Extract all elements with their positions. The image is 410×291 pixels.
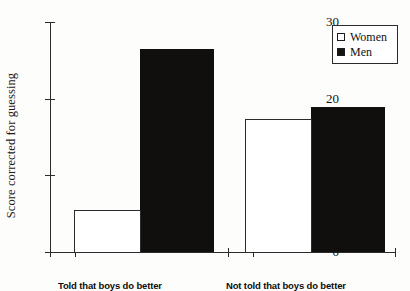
bar-men-group-1 bbox=[311, 107, 385, 252]
x-tick-2 bbox=[228, 248, 229, 257]
filled-square-icon bbox=[337, 48, 345, 56]
y-tick-label-20: 20 bbox=[309, 92, 339, 105]
y-tick-20 bbox=[45, 99, 55, 100]
y-axis-title: Score corrected for guessing bbox=[0, 0, 22, 291]
y-tick-10 bbox=[45, 175, 55, 176]
legend-item-men: Men bbox=[337, 44, 393, 59]
bar-chart-figure: Score corrected for guessing 0102030 Tol… bbox=[0, 0, 410, 291]
x-group-label-told: Told that boys do better bbox=[58, 280, 162, 291]
open-square-icon bbox=[337, 33, 345, 41]
x-axis-line bbox=[50, 252, 395, 253]
bar-women-group-1 bbox=[245, 119, 312, 252]
x-tick-4 bbox=[395, 248, 396, 257]
legend: Women Men bbox=[332, 25, 398, 64]
x-tick-0 bbox=[50, 248, 51, 257]
bar-men-group-0 bbox=[140, 49, 214, 252]
legend-label-women: Women bbox=[350, 31, 387, 43]
legend-item-women: Women bbox=[337, 29, 393, 44]
y-axis-line bbox=[50, 22, 51, 252]
x-group-label-not-told: Not told that boys do better bbox=[226, 280, 346, 291]
legend-label-men: Men bbox=[350, 46, 372, 58]
y-tick-30 bbox=[45, 22, 55, 23]
bar-women-group-0 bbox=[74, 210, 141, 252]
